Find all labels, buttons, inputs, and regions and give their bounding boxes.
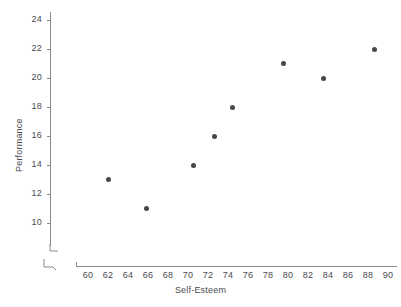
data-point xyxy=(144,206,149,211)
data-point xyxy=(212,134,217,139)
scatter-chart: 1012141618202224 60626466687072747678808… xyxy=(0,0,401,307)
y-axis-title: Performance xyxy=(14,118,24,172)
y-tick-label: 20 xyxy=(10,72,42,82)
y-tick-label: 18 xyxy=(10,101,42,111)
y-tick-mark xyxy=(47,136,50,137)
x-axis-break-icon xyxy=(42,258,62,272)
y-tick-mark xyxy=(47,223,50,224)
y-tick-label: 12 xyxy=(10,188,42,198)
y-tick-label: 22 xyxy=(10,43,42,53)
y-axis-line xyxy=(50,12,51,246)
x-axis-title: Self-Esteem xyxy=(0,285,401,295)
y-tick-label: 24 xyxy=(10,14,42,24)
data-point xyxy=(191,163,196,168)
y-tick-mark xyxy=(47,194,50,195)
y-tick-mark xyxy=(47,20,50,21)
data-point xyxy=(372,47,377,52)
data-point xyxy=(321,76,326,81)
x-axis-line xyxy=(76,266,397,267)
y-tick-mark xyxy=(47,49,50,50)
x-axis-start-tick xyxy=(76,262,77,267)
y-tick-mark xyxy=(47,107,50,108)
y-tick-mark xyxy=(47,165,50,166)
y-axis-break-icon xyxy=(47,243,61,259)
x-tick-label: 90 xyxy=(376,270,400,280)
data-point xyxy=(230,105,235,110)
y-tick-mark xyxy=(47,78,50,79)
data-point xyxy=(106,177,111,182)
data-point xyxy=(281,61,286,66)
y-tick-label: 10 xyxy=(10,217,42,227)
